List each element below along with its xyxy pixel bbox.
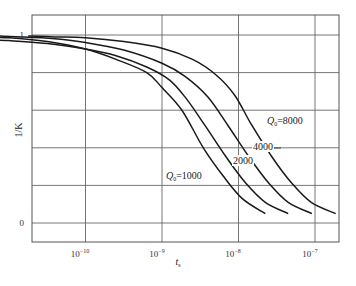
curve-q0-2000 — [0, 40, 288, 214]
ytick-1: 1 — [20, 30, 25, 40]
x-axis-label: ts — [175, 256, 181, 268]
curve-label-q2000: 2000 — [233, 155, 253, 166]
ytick-0: 0 — [20, 218, 25, 228]
xtick-1e-8: 10−8 — [225, 248, 240, 259]
curve-label-q4000: 4000 — [253, 141, 273, 152]
xtick-1e-7: 10−7 — [302, 248, 317, 259]
plot-frame — [32, 15, 339, 242]
xtick-1e-9: 10−9 — [149, 248, 164, 259]
curve-label-q1000: Q0=1000 — [166, 170, 202, 182]
y-axis-label: 1/K — [13, 122, 24, 138]
curve-label-q8000: Q0=8000 — [267, 115, 303, 127]
svg-text:10−10: 10−10 — [71, 248, 89, 259]
svg-text:10−8: 10−8 — [225, 248, 240, 259]
xtick-1e-10: 10−10 — [71, 248, 89, 259]
svg-text:10−7: 10−7 — [302, 248, 317, 259]
curve-q0-4000 — [0, 36, 312, 214]
curve-q0-1000 — [0, 36, 265, 214]
chart: 1 0 10−10 10−9 10−8 10−7 1/K ts Q0=1000 … — [0, 0, 356, 286]
grid-lines — [32, 15, 339, 242]
svg-text:10−9: 10−9 — [149, 248, 164, 259]
